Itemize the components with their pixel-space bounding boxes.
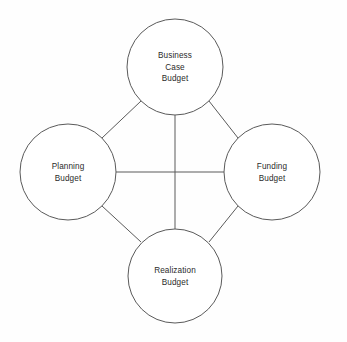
node-circle-realization-budget[interactable] (128, 229, 222, 323)
connector-funding-to-realization (209, 206, 238, 242)
node-circle-business-case-budget[interactable] (127, 19, 223, 115)
connector-planning-to-realization (102, 206, 141, 242)
node-circle-group (20, 19, 320, 323)
diagram-graphics-layer (0, 0, 347, 342)
node-circle-planning-budget[interactable] (20, 124, 116, 220)
node-circle-funding-budget[interactable] (224, 124, 320, 220)
budget-cycle-diagram: Business Case Budget Planning Budget Fun… (0, 0, 347, 342)
connector-business-case-to-funding (209, 101, 238, 138)
connector-business-case-to-planning (102, 101, 141, 138)
connector-group (102, 101, 238, 242)
